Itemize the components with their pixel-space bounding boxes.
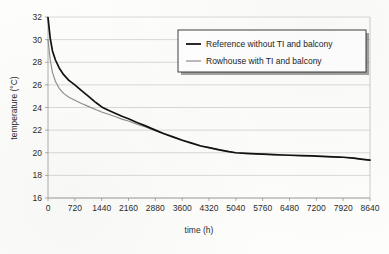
- x-tick-label-5760: 5760: [253, 203, 272, 213]
- x-tick-label-6480: 6480: [280, 203, 299, 213]
- x-tick-label-7920: 7920: [334, 203, 353, 213]
- y-tick-label-28: 28: [33, 57, 43, 67]
- x-axis-title: time (h): [185, 225, 214, 235]
- y-tick-label-20: 20: [33, 148, 43, 158]
- chart-legend: Reference without TI and balcony Rowhous…: [178, 30, 369, 75]
- y-tick-label-18: 18: [33, 170, 43, 180]
- x-tick-label-2160: 2160: [119, 203, 138, 213]
- x-tick-label-5040: 5040: [226, 203, 245, 213]
- y-tick-label-22: 22: [33, 125, 43, 135]
- line-chart-canvas: 0720144021602880360043205040576064807200…: [0, 0, 389, 254]
- x-tick-label-720: 720: [68, 203, 82, 213]
- x-tick-label-4320: 4320: [200, 203, 219, 213]
- x-tick-label-1440: 1440: [92, 203, 111, 213]
- x-tick-label-0: 0: [46, 203, 51, 213]
- legend-label-reference: Reference without TI and balcony: [206, 39, 333, 49]
- y-axis-tick-labels: 161820222426283032: [33, 12, 43, 203]
- y-tick-label-26: 26: [33, 80, 43, 90]
- x-tick-label-8640: 8640: [361, 203, 380, 213]
- x-tick-label-2880: 2880: [146, 203, 165, 213]
- y-tick-label-24: 24: [33, 103, 43, 113]
- chart-figure: 0720144021602880360043205040576064807200…: [0, 0, 389, 254]
- y-tick-label-32: 32: [33, 12, 43, 22]
- y-tick-label-30: 30: [33, 35, 43, 45]
- legend-label-rowhouse: Rowhouse with TI and balcony: [206, 56, 322, 66]
- y-axis-title: temperature (°C): [9, 76, 19, 140]
- y-tick-label-16: 16: [33, 193, 43, 203]
- x-tick-label-3600: 3600: [173, 203, 192, 213]
- x-tick-label-7200: 7200: [307, 203, 326, 213]
